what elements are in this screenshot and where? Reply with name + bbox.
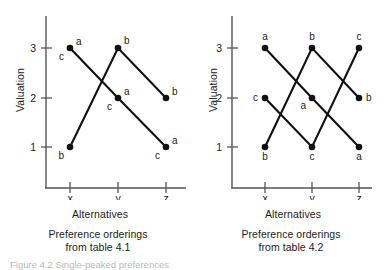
data-point-y2-left — [115, 95, 122, 102]
point-label-x1-b-right: b — [262, 151, 268, 162]
data-point-x2-right — [262, 95, 269, 102]
point-label-y3-b-left: b — [124, 35, 130, 46]
point-label-z3-c-right: c — [357, 31, 362, 42]
point-label-z2-b-right: b — [366, 92, 372, 103]
x-tick-label-z-right: z — [356, 192, 361, 200]
point-label-x3-a-right: a — [262, 31, 268, 42]
y-tick-label-3-left: 3 — [30, 42, 36, 54]
point-label-z1-a-left: a — [172, 135, 178, 146]
y-tick-label-1-right: 1 — [216, 141, 222, 153]
panel-caption-left: Preference orderings from table 4.1 — [8, 228, 188, 253]
point-label-y1-c-right: c — [310, 151, 315, 162]
data-point-y3-left — [115, 45, 122, 52]
x-axis-title-right: Alternatives — [213, 208, 373, 220]
panel-caption-left-line1: Preference orderings — [8, 228, 188, 241]
data-point-z1-right — [356, 144, 363, 151]
data-point-x3-left — [67, 45, 74, 52]
chart-panel-left: 3 2 1 x y z a c b a — [0, 0, 193, 266]
point-label-z1-a-right: a — [356, 151, 362, 162]
point-label-x2-c-right: c — [253, 92, 258, 103]
x-tick-label-y-right: y — [309, 192, 315, 200]
point-label-z2-b-left: b — [172, 86, 178, 97]
data-point-z3-right — [356, 45, 363, 52]
panel-caption-right-line1: Preference orderings — [201, 228, 381, 241]
panel-caption-left-line2: from table 4.1 — [8, 241, 188, 254]
point-label-z1-c-left: c — [155, 150, 160, 161]
data-point-x3-right — [262, 45, 269, 52]
point-label-y2-a-right: a — [300, 100, 306, 111]
panel-caption-right: Preference orderings from table 4.2 — [201, 228, 381, 253]
data-point-z1-left — [163, 144, 170, 151]
point-label-y3-b-right: b — [309, 31, 315, 42]
y-tick-label-2-left: 2 — [30, 92, 36, 104]
x-tick-label-z-left: z — [163, 192, 168, 200]
y-tick-label-1-left: 1 — [30, 141, 36, 153]
x-axis-title-left: Alternatives — [20, 208, 180, 220]
data-point-y1-right — [309, 144, 316, 151]
x-tick-label-x-right: x — [262, 192, 268, 200]
x-tick-label-y-left: y — [115, 192, 121, 200]
y-axis-title-left: Valuation — [14, 50, 26, 130]
chart-panel-right: 3 2 1 x y z — [193, 0, 386, 266]
y-axis-title-right: Valuation — [207, 50, 219, 130]
data-point-z2-left — [163, 95, 170, 102]
point-label-x1-b-left: b — [58, 150, 64, 161]
data-point-x1-right — [262, 144, 269, 151]
data-point-z2-right — [356, 95, 363, 102]
point-label-x3-a-left: a — [76, 36, 82, 47]
plot-area-right: 3 2 1 x y z — [193, 0, 386, 200]
point-label-x3-c-left: c — [59, 51, 64, 62]
data-point-y2-right — [309, 95, 316, 102]
point-label-y2-c-left: c — [107, 101, 112, 112]
point-label-y2-a-left: a — [124, 86, 130, 97]
data-point-x1-left — [67, 144, 74, 151]
data-point-y3-right — [309, 45, 316, 52]
figure-footer-caption: Figure 4.2 Single-peaked preferences — [10, 259, 380, 270]
x-tick-label-x-left: x — [67, 192, 73, 200]
plot-area-left: 3 2 1 x y z a c b a — [0, 0, 193, 200]
panel-caption-right-line2: from table 4.2 — [201, 241, 381, 254]
